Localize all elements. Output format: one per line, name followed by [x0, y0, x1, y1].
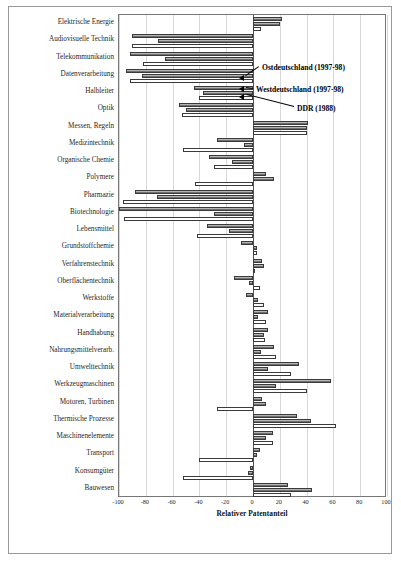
bar-west [253, 264, 264, 268]
bar-ddr [195, 182, 253, 186]
bar-ost [253, 328, 268, 332]
bar-ddr [199, 458, 253, 462]
bar-row [119, 51, 385, 68]
bar-ddr [132, 44, 253, 48]
category-label: Transport [6, 449, 114, 457]
bar-ost [253, 431, 273, 435]
bar-ddr [253, 389, 307, 393]
category-label: Organische Chemie [6, 156, 114, 164]
category-label: Verfahrenstechnik [6, 260, 114, 268]
legend-label-ostdeutschland: Ostdeutschland (1997-98) [262, 63, 345, 72]
figure: Elektrische EnergieAudiovisuelle Technik… [0, 0, 401, 562]
bar-ost [241, 241, 253, 245]
category-label: Nahrungsmittelverarb. [6, 346, 114, 354]
leader-arrowhead [239, 86, 244, 92]
plot-area [118, 14, 386, 497]
bar-ddr [253, 441, 273, 445]
bar-row [119, 275, 385, 292]
gridline [387, 15, 388, 496]
bar-ddr [123, 200, 253, 204]
bar-ost [179, 103, 253, 107]
category-label: Thermische Prozesse [6, 415, 114, 423]
bar-ddr [124, 217, 253, 221]
category-label: Handhabung [6, 329, 114, 337]
category-label: Telekommunikation [6, 53, 114, 61]
category-label: Messen, Regeln [6, 122, 114, 130]
bar-row [119, 344, 385, 361]
bar-ddr [253, 27, 261, 31]
x-tick-label: 20 [264, 498, 294, 505]
bar-ost [126, 69, 253, 73]
x-tick-label: 80 [344, 498, 374, 505]
bar-ost [253, 259, 262, 263]
bar-ost [209, 155, 253, 159]
x-axis-title: Relativer Patentanteil [118, 509, 386, 518]
category-label: Motoren, Turbinen [6, 398, 114, 406]
bar-west [157, 195, 253, 199]
bar-row [119, 378, 385, 395]
bar-west [203, 91, 253, 95]
legend-label-westdeutschland: Westdeutschland (1997-98) [256, 85, 344, 94]
bar-ddr [253, 269, 255, 273]
x-tick-label: -20 [210, 498, 240, 505]
bar-ost [253, 379, 331, 383]
bar-row [119, 292, 385, 309]
category-label: Konsumgüter [6, 467, 114, 475]
bar-ost [135, 190, 253, 194]
bar-west [244, 143, 253, 147]
x-tick-label: 100 [371, 498, 401, 505]
bar-row [119, 430, 385, 447]
bar-row [119, 154, 385, 171]
bar-ddr [253, 424, 336, 428]
bar-ost [253, 17, 282, 21]
bar-row [119, 137, 385, 154]
category-label: Umwelttechnik [6, 363, 114, 371]
x-tick-label: 40 [291, 498, 321, 505]
bar-ost [253, 483, 288, 487]
leader-arrowhead [239, 75, 244, 81]
bar-row [119, 327, 385, 344]
bar-west [165, 57, 253, 61]
bar-row [119, 171, 385, 188]
category-label: Elektrische Energie [6, 18, 114, 26]
bar-ost [253, 397, 262, 401]
bar-ost [253, 345, 274, 349]
bar-ddr [253, 355, 276, 359]
bar-row [119, 223, 385, 240]
bar-ddr [253, 131, 307, 135]
category-label: Optik [6, 104, 114, 112]
category-label: Audiovisuelle Technik [6, 35, 114, 43]
bar-row [119, 16, 385, 33]
bar-ddr [143, 62, 253, 66]
bar-west [253, 436, 266, 440]
bar-row [119, 482, 385, 499]
x-tick-label: 60 [317, 498, 347, 505]
bar-west [229, 229, 253, 233]
category-label: Materialverarbeitung [6, 311, 114, 319]
bar-west [253, 419, 311, 423]
bar-ost [253, 362, 299, 366]
bar-ddr [253, 372, 291, 376]
bar-ost [250, 466, 253, 470]
category-label: Werkstoffe [6, 294, 114, 302]
category-label: Bauwesen [6, 484, 114, 492]
bar-west [248, 471, 253, 475]
bar-west [253, 402, 266, 406]
bar-ost [119, 207, 253, 211]
category-label: Biotechnologie [6, 208, 114, 216]
bar-ost [234, 276, 253, 280]
bar-west [253, 367, 268, 371]
bar-ddr [182, 113, 253, 117]
bar-ddr [197, 234, 253, 238]
bar-row [119, 309, 385, 326]
x-tick-label: -40 [183, 498, 213, 505]
bar-row [119, 206, 385, 223]
x-tick-label: -100 [103, 498, 133, 505]
bar-west [253, 350, 261, 354]
bar-west [186, 108, 253, 112]
category-axis-labels: Elektrische EnergieAudiovisuelle Technik… [4, 14, 114, 497]
bar-row [119, 413, 385, 430]
bar-west [142, 74, 253, 78]
legend-label-ddr: DDR (1988) [297, 104, 336, 113]
bar-row [119, 396, 385, 413]
